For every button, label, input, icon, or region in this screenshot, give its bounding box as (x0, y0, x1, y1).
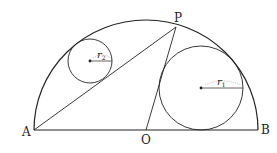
segment-OP (146, 27, 176, 130)
geometry-diagram: r2 r1 A B O P (0, 0, 277, 153)
label-r2: r2 (97, 49, 106, 61)
semicircle-arc (34, 20, 258, 130)
label-point-P: P (174, 11, 182, 25)
segment-AP (34, 27, 176, 130)
label-point-B: B (261, 123, 270, 137)
label-r1: r1 (217, 76, 226, 88)
label-point-O: O (141, 133, 151, 147)
label-point-A: A (21, 125, 31, 139)
